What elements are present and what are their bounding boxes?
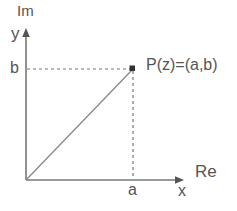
imaginary-axis-label: Im (17, 3, 34, 18)
imaginary-axis (22, 28, 30, 180)
ordinate-tick-label-b: b (10, 60, 19, 76)
abscissa-tick-label-a: a (128, 182, 137, 198)
real-variable-label: x (178, 183, 186, 199)
point-marker-p (130, 66, 136, 72)
argand-diagram-figure: Im y b a x Re P(z)=(a,b) (0, 0, 237, 211)
imaginary-variable-label: y (11, 25, 20, 42)
imaginary-axis-arrowhead (22, 28, 30, 37)
point-label-p: P(z)=(a,b) (146, 57, 218, 73)
position-vector (26, 70, 132, 180)
real-axis-label: Re (195, 163, 217, 180)
real-axis (26, 176, 184, 184)
